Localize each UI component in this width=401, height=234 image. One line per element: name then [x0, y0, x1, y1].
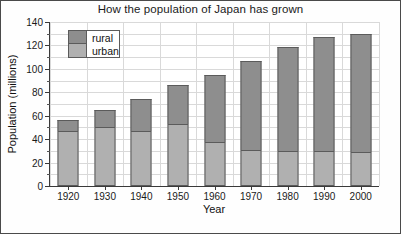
- chart-figure: How the population of Japan has grown Po…: [0, 0, 401, 234]
- x-axis-tick-label: 1920: [57, 191, 79, 202]
- y-axis-tick-label: 120: [26, 40, 43, 51]
- bar-segment-urban[interactable]: [131, 131, 152, 186]
- y-axis-tick-major: [45, 22, 50, 23]
- legend-item-urban: urban: [69, 44, 119, 57]
- legend-swatch-urban-icon: [69, 44, 87, 57]
- bar-segment-urban[interactable]: [58, 131, 79, 186]
- gridline-horizontal: [50, 22, 379, 23]
- y-axis-tick-major: [45, 45, 50, 46]
- x-axis-tick-label: 1960: [203, 191, 225, 202]
- bar-segment-rural[interactable]: [314, 37, 335, 151]
- bar-segment-rural[interactable]: [94, 110, 115, 128]
- y-axis-title: Population (millions): [5, 21, 19, 187]
- x-axis-tick-label: 1990: [313, 191, 335, 202]
- bar-segment-rural[interactable]: [204, 75, 225, 142]
- y-axis-tick-major: [45, 92, 50, 93]
- x-axis-tick-label: 2000: [350, 191, 372, 202]
- x-axis-tick-label: 1940: [130, 191, 152, 202]
- chart-legend: rural urban: [68, 30, 120, 58]
- gridline-vertical: [160, 22, 161, 186]
- y-axis-tick-label: 40: [32, 134, 43, 145]
- y-axis-tick-minor: [47, 104, 50, 105]
- bar-stack[interactable]: [204, 75, 225, 186]
- bar-stack[interactable]: [94, 110, 115, 186]
- x-axis-tick: [105, 186, 106, 190]
- y-axis-tick-label: 140: [26, 17, 43, 28]
- y-axis-tick-label: 100: [26, 63, 43, 74]
- y-axis-tick-minor: [47, 127, 50, 128]
- bar-stack[interactable]: [277, 47, 298, 186]
- bar-segment-rural[interactable]: [277, 47, 298, 151]
- gridline-vertical: [233, 22, 234, 186]
- bar-segment-rural[interactable]: [58, 120, 79, 131]
- bar-segment-rural[interactable]: [167, 85, 188, 124]
- legend-item-rural: rural: [69, 31, 119, 44]
- gridline-vertical: [196, 22, 197, 186]
- bar-segment-urban[interactable]: [350, 152, 371, 186]
- y-axis-tick-major: [45, 116, 50, 117]
- x-axis-tick: [361, 186, 362, 190]
- bar-segment-urban[interactable]: [204, 142, 225, 187]
- legend-swatch-rural-icon: [69, 31, 87, 44]
- y-axis-tick-label: 0: [37, 181, 43, 192]
- gridline-vertical: [379, 22, 380, 186]
- x-axis-tick: [178, 186, 179, 190]
- gridline-vertical: [342, 22, 343, 186]
- y-axis-tick-label: 20: [32, 157, 43, 168]
- y-axis-tick-label: 60: [32, 110, 43, 121]
- gridline-vertical: [306, 22, 307, 186]
- legend-label-rural: rural: [87, 32, 113, 44]
- x-axis-tick: [215, 186, 216, 190]
- legend-label-urban: urban: [87, 45, 119, 57]
- bar-stack[interactable]: [241, 61, 262, 186]
- bar-segment-urban[interactable]: [94, 127, 115, 186]
- bar-stack[interactable]: [350, 34, 371, 186]
- x-axis-title: Year: [49, 203, 379, 215]
- y-axis-tick-minor: [47, 57, 50, 58]
- x-axis-tick-label: 1930: [94, 191, 116, 202]
- plot-area: 020406080100120140 192019301940195019601…: [49, 22, 379, 187]
- bar-segment-rural[interactable]: [241, 61, 262, 150]
- x-axis-tick: [251, 186, 252, 190]
- bar-stack[interactable]: [167, 85, 188, 186]
- bar-stack[interactable]: [314, 37, 335, 186]
- bar-segment-rural[interactable]: [131, 99, 152, 131]
- y-axis-tick-major: [45, 139, 50, 140]
- y-axis-tick-label: 80: [32, 87, 43, 98]
- bar-segment-urban[interactable]: [167, 124, 188, 186]
- bar-stack[interactable]: [58, 120, 79, 186]
- y-axis-tick-major: [45, 163, 50, 164]
- y-axis-tick-minor: [47, 151, 50, 152]
- x-axis-tick-label: 1980: [276, 191, 298, 202]
- x-axis-tick: [141, 186, 142, 190]
- chart-title: How the population of Japan has grown: [1, 3, 400, 15]
- x-axis-tick-label: 1970: [240, 191, 262, 202]
- x-axis-tick: [68, 186, 69, 190]
- gridline-vertical: [269, 22, 270, 186]
- y-axis-tick-major: [45, 186, 50, 187]
- bar-segment-rural[interactable]: [350, 34, 371, 152]
- bar-segment-urban[interactable]: [314, 151, 335, 186]
- y-axis-title-label: Population (millions): [6, 54, 18, 153]
- bar-segment-urban[interactable]: [277, 151, 298, 186]
- x-axis-tick: [288, 186, 289, 190]
- gridline-vertical: [123, 22, 124, 186]
- y-axis-tick-minor: [47, 34, 50, 35]
- y-axis-tick-major: [45, 69, 50, 70]
- bar-segment-urban[interactable]: [241, 150, 262, 186]
- bar-stack[interactable]: [131, 99, 152, 186]
- gridline-vertical: [50, 22, 51, 186]
- x-axis-tick: [324, 186, 325, 190]
- y-axis-tick-minor: [47, 81, 50, 82]
- x-axis-tick-label: 1950: [167, 191, 189, 202]
- y-axis-tick-minor: [47, 174, 50, 175]
